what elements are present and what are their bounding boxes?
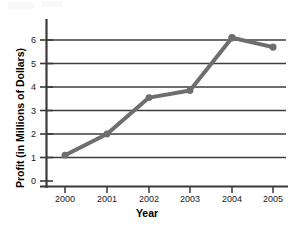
y-axis-title: Profit (in Millions of Dollars) [14,48,26,188]
line-chart: 0 1 2 3 4 5 6 2000 2001 2002 2003 2004 2… [0,0,294,227]
x-tick-label-2002: 2002 [132,194,166,204]
data-point [228,34,236,42]
data-point [269,44,276,51]
x-tick-label-2000: 2000 [48,194,82,204]
y-tick-label-6: 6 [22,35,36,45]
x-tick-label-2005: 2005 [256,194,290,204]
data-line-profit [65,38,273,156]
x-tick-label-2004: 2004 [215,194,249,204]
x-tick-label-2001: 2001 [90,194,124,204]
x-axis-title: Year [0,207,294,219]
gridlines [46,40,286,158]
data-point [104,131,111,138]
data-point [62,152,69,159]
data-point [187,87,194,94]
data-point [146,94,153,101]
x-tick-label-2003: 2003 [173,194,207,204]
plot-area [0,0,294,227]
